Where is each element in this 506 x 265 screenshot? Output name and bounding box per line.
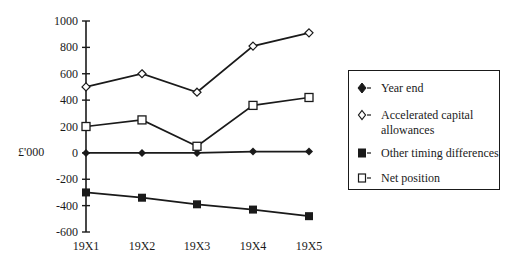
x-tick-label: 19X1 [73,239,100,253]
legend-label: Other timing differences [381,146,499,161]
filled-square-icon [82,188,90,196]
open-diamond-icon [138,70,146,78]
series-net-position [82,93,313,150]
x-tick-label: 19X3 [184,239,211,253]
legend-label-line2: allowances [381,123,434,137]
x-tick-label: 19X4 [240,239,267,253]
filled-square-icon [138,194,146,202]
legend-item-other-timing-differences: Other timing differences [357,146,499,161]
open-square-icon [82,123,90,131]
open-diamond-icon [305,29,313,37]
filled-diamond-icon [357,81,375,95]
open-square-icon [138,116,146,124]
y-axis-label: £'000 [18,145,44,159]
filled-diamond-icon [138,149,146,157]
plot-area [82,29,313,220]
filled-square-icon [357,146,375,160]
open-diamond-icon [357,108,375,122]
open-diamond-icon [82,83,90,91]
y-tick-label: 400 [60,93,78,107]
legend-item-accelerated-capital-allowances: Accelerated capital allowances [357,108,499,138]
legend-label-line1: Accelerated capital [381,108,473,122]
filled-square-icon [249,206,257,214]
legend-item-net-position: Net position [357,171,499,186]
y-tick-label: 200 [60,120,78,134]
y-tick-label: 600 [60,67,78,81]
open-square-icon [193,142,201,150]
legend: Year end Accelerated capital allowances … [348,70,500,190]
filled-square-icon [193,200,201,208]
series-accelerated-capital-allowances [82,29,313,96]
y-axis: 10008006004002000-200-400-60019X119X219X… [54,14,322,253]
x-tick-label: 19X5 [296,239,323,253]
open-square-icon [357,171,375,185]
legend-item-year-end: Year end [357,81,499,96]
filled-diamond-icon [305,148,313,156]
x-tick-label: 19X2 [129,239,156,253]
filled-diamond-icon [82,149,90,157]
y-tick-label: 0 [72,146,78,160]
filled-diamond-icon [249,148,257,156]
open-square-icon [305,93,313,101]
legend-label: Year end [381,81,499,96]
y-tick-label: 1000 [54,14,78,28]
filled-square-icon [305,212,313,220]
y-tick-label: 800 [60,40,78,54]
y-tick-label: -600 [56,225,78,239]
y-tick-label: -400 [56,199,78,213]
legend-label: Net position [381,171,499,186]
series-other-timing-differences [82,188,313,220]
y-tick-label: -200 [56,172,78,186]
legend-label: Accelerated capital allowances [381,108,499,138]
open-square-icon [249,101,257,109]
